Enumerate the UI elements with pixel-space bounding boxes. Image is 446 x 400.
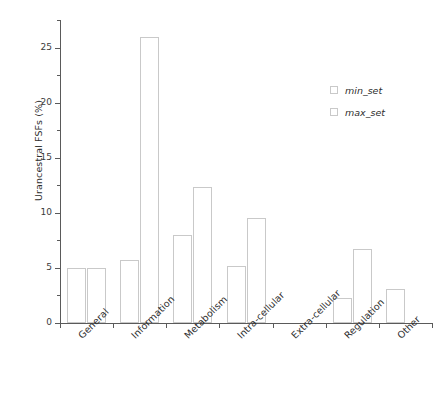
y-tick-label: 10 xyxy=(30,208,52,217)
y-tick-major xyxy=(55,213,61,214)
y-axis-title: Urancestral FSFs (%) xyxy=(33,51,44,251)
y-tick-label: 15 xyxy=(30,153,52,162)
y-tick-label: 0 xyxy=(30,318,52,327)
y-tick-label: 5 xyxy=(30,263,52,272)
y-tick-label: 25 xyxy=(30,43,52,52)
bar[interactable] xyxy=(173,235,192,323)
y-tick-major xyxy=(55,48,61,49)
y-tick-minor xyxy=(57,130,61,131)
x-tick xyxy=(379,323,380,328)
legend-label: min_set xyxy=(345,85,382,96)
bar[interactable] xyxy=(386,289,405,323)
y-tick-major xyxy=(55,103,61,104)
legend-swatch-icon xyxy=(330,86,338,94)
y-tick-major xyxy=(55,158,61,159)
x-tick xyxy=(326,323,327,328)
bar[interactable] xyxy=(67,268,86,323)
bar-chart: Urancestral FSFs (%) 0510152025 GeneralI… xyxy=(0,0,446,400)
y-tick-major xyxy=(55,268,61,269)
y-axis-line xyxy=(60,20,61,324)
bar[interactable] xyxy=(227,266,246,323)
bar[interactable] xyxy=(140,37,159,323)
y-tick-minor xyxy=(57,75,61,76)
y-tick-minor xyxy=(57,20,61,21)
y-tick-label: 20 xyxy=(30,98,52,107)
x-tick xyxy=(166,323,167,328)
x-tick xyxy=(273,323,274,328)
x-tick xyxy=(60,323,61,328)
legend-swatch-icon xyxy=(330,108,338,116)
y-tick-minor xyxy=(57,185,61,186)
x-tick xyxy=(113,323,114,328)
x-tick xyxy=(432,323,433,328)
legend-item-min-set[interactable]: min_set xyxy=(330,82,385,98)
legend-item-max-set[interactable]: max_set xyxy=(330,104,385,120)
legend: min_set max_set xyxy=(330,82,385,126)
x-tick xyxy=(219,323,220,328)
y-tick-minor xyxy=(57,295,61,296)
y-tick-minor xyxy=(57,240,61,241)
bar[interactable] xyxy=(120,260,139,323)
legend-label: max_set xyxy=(345,107,385,118)
bar[interactable] xyxy=(193,187,212,323)
